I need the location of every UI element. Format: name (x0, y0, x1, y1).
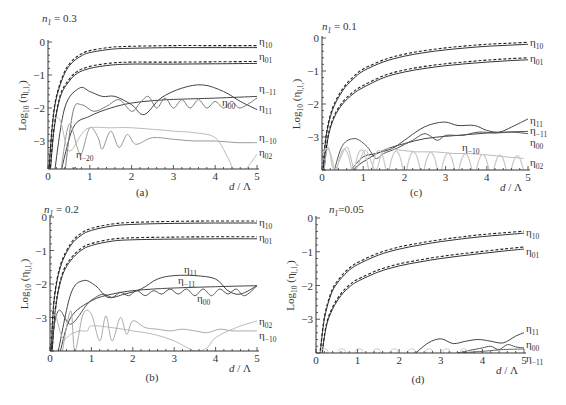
curve-eta-02-arch (493, 155, 508, 176)
x-tick-label: 0 (319, 171, 325, 183)
y-tick-label: −2 (301, 280, 313, 292)
panel-a-parameter: n1 = 0.3 (42, 12, 77, 27)
curve-eta--20 (71, 167, 79, 174)
curve-eta-02-arch (423, 153, 438, 175)
x-tick-label: 4 (212, 170, 218, 182)
curve-eta-10-dashed (320, 231, 524, 351)
label-eta-m10: η−10 (259, 131, 277, 146)
x-tick-label: 3 (171, 352, 177, 364)
y-tick-label: −1 (33, 69, 45, 81)
figure: 0123450−1−2−3d / ΛLog10 (ηl₁l₂) n1 = 0.3… (0, 0, 566, 405)
curve-eta-00 (50, 286, 257, 351)
y-tick-label: −1 (307, 65, 319, 77)
x-tick-label: 3 (443, 171, 449, 183)
label-eta-m11: η−11 (526, 352, 543, 367)
panel-a-axes: 0123450−1−2−3d / ΛLog10 (ηl₁l₂) (16, 36, 260, 192)
y-tick-label: −2 (307, 98, 319, 110)
x-tick-label: 0 (47, 352, 53, 364)
label-eta-m11: η−11 (259, 82, 276, 97)
label-eta02: η02 (259, 146, 273, 161)
x-tick-label: 1 (87, 170, 93, 182)
curve-eta-10 (320, 233, 524, 353)
x-tick-label: 2 (396, 354, 402, 366)
label-eta10: η10 (526, 226, 540, 241)
label-eta11: η11 (526, 322, 539, 337)
panel-a-caption: (a) (136, 186, 149, 199)
x-axis-title: d / Λ (229, 362, 251, 374)
x-tick-label: 4 (480, 354, 486, 366)
y-tick-label: −1 (301, 246, 313, 258)
panel-d: 0123450−1−2−3d / ΛLog10 (ηl₁l₂) n1=0.05 … (284, 203, 543, 386)
x-tick-label: 1 (355, 354, 361, 366)
panel-d-caption: (d) (412, 373, 425, 386)
x-axis-title: d / Λ (496, 364, 518, 376)
curve-eta-11 (351, 119, 528, 170)
label-eta11: η11 (259, 101, 272, 116)
label-eta10: η10 (530, 36, 544, 51)
label-eta-m20: η−20 (76, 148, 94, 163)
x-tick-label: 2 (402, 171, 408, 183)
x-tick-label: 5 (525, 171, 531, 183)
panel-c-caption: (c) (410, 186, 423, 199)
label-eta00: η00 (526, 338, 540, 353)
panel-b-curves (50, 221, 257, 351)
y-tick-label: −3 (35, 312, 47, 324)
label-eta00: η00 (222, 96, 236, 111)
y-tick-label: −2 (35, 278, 47, 290)
x-tick-label: 5 (254, 352, 260, 364)
x-tick-label: 3 (171, 170, 177, 182)
x-tick-label: 2 (129, 170, 135, 182)
curve-eta-02 (54, 118, 257, 175)
panel-d-curves (320, 231, 524, 354)
y-axis-title: Log10 (ηl₁l₂) (284, 260, 299, 311)
label-eta10: η10 (259, 35, 273, 50)
label-eta01: η01 (530, 52, 544, 67)
curve-eta-01 (322, 249, 524, 353)
label-eta11: η11 (184, 263, 197, 278)
y-axis-title: Log10 (ηl₁l₂) (16, 80, 31, 131)
x-axis-title: d / Λ (500, 181, 522, 193)
label-eta02: η02 (259, 315, 273, 330)
panel-d-parameter: n1=0.05 (329, 203, 364, 218)
panel-c-axes: 0123450−1−2−3d / ΛLog10 (ηl₁l₂) (290, 32, 531, 193)
curve-eta-02-arch (510, 156, 525, 178)
panel-a: 0123450−1−2−3d / ΛLog10 (ηl₁l₂) n1 = 0.3… (16, 12, 277, 199)
curve-eta-02-arch (458, 154, 473, 176)
y-axis-title: Log10 (ηl₁l₂) (290, 78, 305, 129)
curve-eta--10 (62, 310, 257, 351)
y-tick-label: −3 (307, 131, 319, 143)
curve-eta--11 (60, 286, 257, 351)
label-eta02: η02 (530, 156, 544, 171)
label-eta10: η10 (259, 216, 273, 231)
y-tick-label: 0 (314, 32, 320, 44)
curve-eta-01-dashed (322, 247, 524, 351)
y-tick-label: −2 (33, 102, 45, 114)
y-tick-label: −3 (33, 135, 45, 147)
x-tick-label: 4 (484, 171, 490, 183)
label-eta01: η01 (259, 50, 273, 65)
curve-eta-01 (324, 60, 528, 170)
panel-c-parameter: n1 = 0.1 (322, 20, 357, 35)
y-axis-title: Log10 (ηl₁l₂) (18, 258, 33, 309)
y-tick-label: −3 (301, 313, 313, 325)
curve-eta-10 (323, 44, 528, 170)
x-axis-title: d / Λ (229, 180, 251, 192)
x-tick-label: 0 (313, 354, 319, 366)
panel-b-caption: (b) (146, 371, 159, 384)
x-tick-label: 0 (45, 170, 51, 182)
y-tick-label: 0 (40, 36, 46, 48)
panel-b: 0123450−1−2−3d / ΛLog10 (ηl₁l₂) n1 = 0.2… (18, 203, 277, 384)
label-eta01: η01 (259, 231, 273, 246)
panel-b-parameter: n1 = 0.2 (44, 203, 79, 218)
x-tick-label: 2 (130, 352, 136, 364)
y-tick-label: 0 (308, 212, 314, 224)
panel-c-curves (320, 42, 529, 177)
y-tick-label: −1 (35, 245, 47, 257)
panel-c: 0123450−1−2−3d / ΛLog10 (ηl₁l₂) n1 = 0.1… (290, 20, 547, 199)
x-tick-label: 5 (254, 170, 260, 182)
x-tick-label: 4 (213, 352, 219, 364)
x-tick-label: 1 (89, 352, 95, 364)
label-eta-m10: η−10 (259, 329, 277, 344)
x-tick-label: 3 (438, 354, 444, 366)
x-tick-label: 1 (360, 171, 366, 183)
